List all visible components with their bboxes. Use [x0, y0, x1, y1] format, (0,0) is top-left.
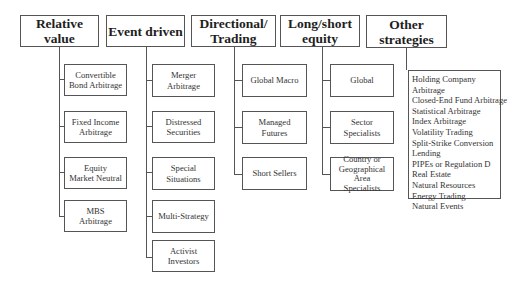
list-item: Arbitrage — [412, 85, 497, 96]
category-other-strategies: Other strategies — [366, 15, 447, 48]
strategy-fixed-income-arbitrage: Fixed Income Arbitrage — [64, 111, 127, 143]
strategy-activist-investors: Activist Investors — [152, 240, 215, 272]
connector-trunk-event-driven — [146, 47, 147, 258]
strategy-label-line2: Situations — [166, 174, 200, 185]
strategy-label: Managed Futures — [245, 117, 304, 138]
strategy-label-line1: Convertible — [75, 70, 116, 81]
strategy-label-line2: Market Neutral — [69, 173, 122, 184]
category-label: Event driven — [108, 24, 183, 39]
strategy-label: Global Macro — [251, 75, 299, 86]
strategy-label-line1: Merger — [171, 70, 196, 81]
category-label-line1: Long/short — [288, 16, 352, 31]
strategy-country-geographical-specialists: Country or Geographical Area Specialists — [330, 157, 394, 191]
strategy-label-line1: MBS — [86, 206, 104, 217]
connector-trunk-other-strategies — [406, 48, 407, 70]
list-item: Holding Company — [412, 74, 497, 85]
connector-branch — [234, 174, 242, 175]
category-label-line1: Directional/ — [200, 16, 268, 31]
category-long-short-equity: Long/short equity — [280, 15, 360, 47]
category-relative-value: Relative value — [20, 15, 99, 47]
category-label: Relative value — [21, 16, 98, 46]
list-item: Natural Resources — [412, 180, 497, 191]
list-item: Volatility Trading — [412, 127, 497, 138]
category-label: Other strategies — [367, 17, 446, 47]
category-directional-trading: Directional/ Trading — [191, 15, 276, 47]
list-item: Index Arbitrage — [412, 116, 497, 127]
strategy-multi-strategy: Multi-Strategy — [152, 200, 215, 233]
strategy-convertible-bond-arbitrage: Convertible Bond Arbitrage — [64, 64, 127, 96]
category-label-line2: Trading — [210, 31, 256, 46]
connector-branch — [322, 80, 330, 81]
list-item: Lending — [412, 148, 497, 159]
strategy-label-line2: Arbitrage — [79, 216, 112, 227]
strategy-label: Multi-Strategy — [158, 211, 209, 222]
list-item: Energy Trading — [412, 191, 497, 202]
strategy-short-sellers: Short Sellers — [242, 157, 307, 190]
connector-trunk-long-short-equity — [322, 47, 323, 174]
strategy-label-line2: Geographical Area — [333, 165, 391, 184]
strategy-label: Short Sellers — [252, 168, 296, 179]
connector-branch — [234, 80, 242, 81]
strategy-merger-arbitrage: Merger Arbitrage — [152, 64, 215, 97]
strategy-special-situations: Special Situations — [152, 157, 215, 190]
list-item: Split-Strike Conversion — [412, 138, 497, 149]
strategy-label: Activist Investors — [155, 246, 212, 267]
list-item: PIPEs or Regulation D — [412, 159, 497, 170]
category-label-line2: equity — [302, 31, 338, 46]
strategy-mbs-arbitrage: MBS Arbitrage — [64, 200, 127, 232]
connector-trunk-directional-trading — [234, 47, 235, 174]
strategy-label-line2: Arbitrage — [79, 127, 112, 138]
strategy-managed-futures: Managed Futures — [242, 111, 307, 144]
list-item: Closed-End Fund Arbitrage — [412, 95, 497, 106]
strategy-global: Global — [330, 64, 394, 97]
list-item: Natural Events — [412, 201, 497, 212]
strategy-label-line2: Bond Arbitrage — [69, 80, 122, 91]
list-item: Statistical Arbitrage — [412, 106, 497, 117]
strategy-label-line1: Fixed Income — [72, 117, 120, 128]
strategy-global-macro: Global Macro — [242, 64, 307, 97]
strategy-label-line2: Arbitrage — [167, 81, 200, 92]
strategy-label-line1: Distressed — [166, 117, 202, 128]
strategy-label-line1: Special — [171, 163, 196, 174]
strategy-label: Sector Specialists — [333, 117, 391, 138]
connector-branch — [234, 127, 242, 128]
strategy-sector-specialists: Sector Specialists — [330, 111, 394, 144]
connector-branch — [322, 174, 330, 175]
other-strategies-list: Holding Company Arbitrage Closed-End Fun… — [408, 70, 501, 199]
strategy-label-line3: Specialists — [344, 184, 381, 194]
strategy-label: Global — [350, 75, 373, 86]
connector-trunk-relative-value — [59, 47, 60, 217]
strategy-distressed-securities: Distressed Securities — [152, 111, 215, 143]
strategy-equity-market-neutral: Equity Market Neutral — [64, 157, 127, 189]
strategy-label-line2: Securities — [167, 127, 201, 138]
connector-branch — [322, 127, 330, 128]
list-item: Real Estate — [412, 169, 497, 180]
strategy-label-line1: Equity — [84, 163, 107, 174]
category-event-driven: Event driven — [106, 15, 185, 47]
